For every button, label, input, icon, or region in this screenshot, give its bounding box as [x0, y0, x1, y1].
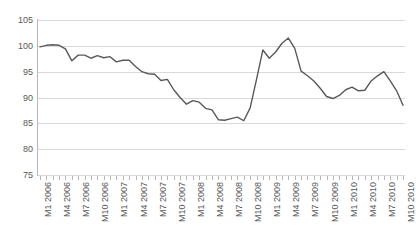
- x-axis-tick-label: M4 2006: [63, 182, 72, 217]
- x-axis-tick: [180, 176, 181, 180]
- x-axis-tick: [110, 176, 111, 180]
- x-axis-tick: [116, 176, 117, 180]
- x-axis-tick-label: M7 2009: [311, 182, 320, 217]
- plot-area: [38, 20, 405, 175]
- gridline: [38, 175, 405, 176]
- x-axis-tick: [320, 176, 321, 180]
- x-axis-tick: [97, 176, 98, 180]
- x-axis-tick: [218, 176, 219, 180]
- x-axis-tick-label: M7 2008: [235, 182, 244, 217]
- x-axis-tick: [40, 176, 41, 180]
- x-axis-tick: [352, 176, 353, 180]
- x-axis-tick: [301, 176, 302, 180]
- x-axis-tick: [104, 176, 105, 180]
- x-axis-tick-label: M7 2010: [388, 182, 397, 217]
- y-axis-tick-label: 95: [23, 67, 33, 76]
- x-axis-tick: [148, 176, 149, 180]
- x-axis-tick: [91, 176, 92, 180]
- x-axis-tick-label: M1 2006: [44, 182, 53, 217]
- x-axis-tick: [397, 176, 398, 180]
- x-axis-tick: [85, 176, 86, 180]
- x-axis-tick: [339, 176, 340, 180]
- x-axis-tick-label: M7 2006: [82, 182, 91, 217]
- x-axis-tick-label: M4 2009: [292, 182, 301, 217]
- data-series-line: [38, 20, 405, 175]
- x-axis-tick: [327, 176, 328, 180]
- x-axis-tick: [167, 176, 168, 180]
- x-axis-tick: [199, 176, 200, 180]
- y-axis-tick-label: 80: [23, 145, 33, 154]
- x-axis-labels: M1 2006M4 2006M7 2006M10 2006M1 2007M4 2…: [38, 182, 405, 244]
- x-axis-tick: [155, 176, 156, 180]
- x-axis-tick: [123, 176, 124, 180]
- x-axis-tick: [244, 176, 245, 180]
- y-axis-tick-label: 85: [23, 119, 33, 128]
- x-axis-tick-label: M10 2008: [254, 182, 263, 222]
- x-axis-tick: [53, 176, 54, 180]
- x-axis-tick: [142, 176, 143, 180]
- y-axis-tick-label: 100: [18, 41, 33, 50]
- x-axis-tick-label: M10 2010: [407, 182, 416, 222]
- x-axis-tick-label: M10 2006: [101, 182, 110, 222]
- y-axis-labels: 7580859095100105: [0, 0, 33, 246]
- y-axis-tick-label: 75: [23, 171, 33, 180]
- x-axis-tick: [231, 176, 232, 180]
- x-axis-tick: [403, 176, 404, 180]
- x-axis-tick: [237, 176, 238, 180]
- x-axis-tick: [65, 176, 66, 180]
- x-axis-tick: [193, 176, 194, 180]
- x-axis-tick-label: M1 2007: [120, 182, 129, 217]
- x-axis-tick: [282, 176, 283, 180]
- x-axis-tick: [314, 176, 315, 180]
- x-axis-tick: [263, 176, 264, 180]
- x-axis-tick: [46, 176, 47, 180]
- x-axis-tick-label: M1 2008: [197, 182, 206, 217]
- x-axis-tick-label: M4 2007: [140, 182, 149, 217]
- x-axis-tick: [269, 176, 270, 180]
- x-axis-tick-label: M4 2008: [216, 182, 225, 217]
- x-axis-tick: [365, 176, 366, 180]
- y-axis-tick-label: 105: [18, 16, 33, 25]
- x-axis-tick: [206, 176, 207, 180]
- x-axis-tick: [78, 176, 79, 180]
- x-axis-tick: [136, 176, 137, 180]
- x-axis-tick: [59, 176, 60, 180]
- x-axis-tick: [390, 176, 391, 180]
- x-axis-tick-label: M1 2009: [273, 182, 282, 217]
- x-axis-tick: [212, 176, 213, 180]
- x-axis-tick-label: M7 2007: [159, 182, 168, 217]
- y-axis-tick-label: 90: [23, 93, 33, 102]
- x-axis-tick: [174, 176, 175, 180]
- x-axis-tick: [307, 176, 308, 180]
- x-axis-tick: [161, 176, 162, 180]
- x-axis-tick-label: M1 2010: [350, 182, 359, 217]
- x-axis-tick: [295, 176, 296, 180]
- x-axis-tick-marks: [38, 176, 405, 180]
- x-axis-tick: [288, 176, 289, 180]
- x-axis-tick: [384, 176, 385, 180]
- x-axis-tick: [346, 176, 347, 180]
- x-axis-tick-label: M10 2009: [331, 182, 340, 222]
- x-axis-tick: [371, 176, 372, 180]
- x-axis-tick: [186, 176, 187, 180]
- x-axis-tick: [250, 176, 251, 180]
- x-axis-tick: [276, 176, 277, 180]
- x-axis-tick: [225, 176, 226, 180]
- x-axis-tick: [358, 176, 359, 180]
- x-axis-tick: [378, 176, 379, 180]
- x-axis-tick: [129, 176, 130, 180]
- x-axis-tick-label: M4 2010: [369, 182, 378, 217]
- x-axis-tick: [72, 176, 73, 180]
- x-axis-tick: [333, 176, 334, 180]
- x-axis-tick: [257, 176, 258, 180]
- x-axis-tick-label: M10 2007: [178, 182, 187, 222]
